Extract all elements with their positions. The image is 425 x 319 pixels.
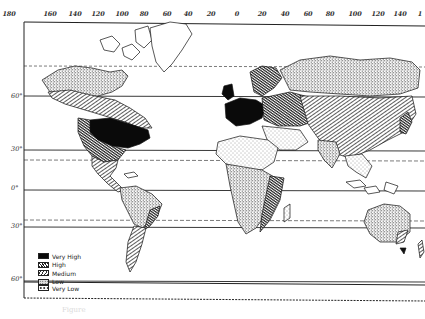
legend-item-very-high: Very High	[38, 252, 81, 261]
legend: Very High High Medium Low Very Low	[38, 252, 81, 286]
tasmania	[400, 248, 406, 254]
continents	[42, 22, 424, 272]
region-south-america-south	[126, 226, 146, 272]
region-scandinavia	[250, 66, 282, 96]
figure-caption: Figure	[62, 306, 86, 314]
swatch-medium-icon	[38, 270, 49, 276]
region-south-america-low	[120, 186, 162, 228]
madagascar	[284, 204, 290, 222]
greenland	[150, 22, 192, 72]
region-india	[318, 140, 340, 168]
swatch-very-high-icon	[38, 253, 49, 259]
legend-item-medium: Medium	[38, 269, 81, 278]
legend-item-very-low: Very Low	[38, 284, 79, 293]
region-uk	[222, 84, 234, 100]
legend-label: Medium	[52, 270, 76, 277]
region-north-africa	[216, 136, 278, 170]
region-mexico	[92, 156, 124, 192]
region-southeast-asia	[345, 154, 372, 178]
region-siberia-low	[280, 56, 420, 96]
legend-label: High	[52, 261, 66, 268]
legend-item-high: High	[38, 261, 81, 270]
swatch-high-icon	[38, 262, 49, 268]
region-asia-medium	[300, 96, 416, 158]
swatch-very-low-icon	[38, 285, 49, 291]
region-australia-se	[396, 230, 408, 244]
new-zealand	[418, 240, 424, 258]
legend-label: Very Low	[52, 285, 79, 292]
region-europe-very-high	[225, 98, 266, 126]
legend-label: Very High	[52, 253, 81, 260]
